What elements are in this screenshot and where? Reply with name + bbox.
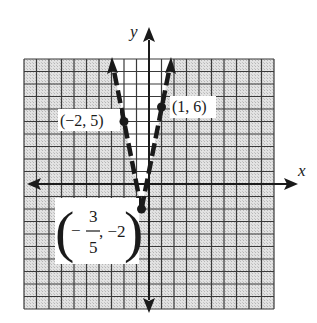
vertex-close-paren: ) xyxy=(124,199,143,264)
vertex-denominator: 5 xyxy=(89,238,98,257)
y-axis-label: y xyxy=(128,22,138,41)
vertex-neg-sign: − xyxy=(71,221,81,240)
point-neg2-5 xyxy=(120,117,129,126)
x-axis-label: x xyxy=(297,161,306,180)
vertex-y-value: , −2 xyxy=(99,222,126,241)
point-label-p2: (1, 6) xyxy=(172,98,207,116)
y-axis-up-arrow-icon xyxy=(143,27,155,42)
graph-canvas: x y (−2, 5) (1, 6) ( − 3 5 , −2 ) xyxy=(0,0,317,323)
vertex-numerator: 3 xyxy=(89,207,98,226)
point-1-6 xyxy=(157,103,166,112)
point-label-p1: (−2, 5) xyxy=(60,112,104,130)
